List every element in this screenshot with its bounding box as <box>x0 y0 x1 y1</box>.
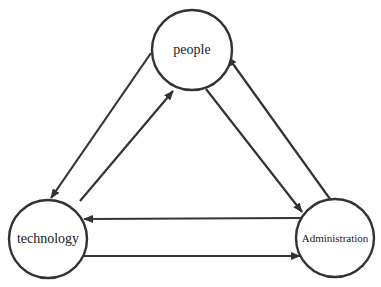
cycle-diagram: peopletechnologyAdministration <box>0 0 381 287</box>
node-label: technology <box>17 231 79 246</box>
node-label: Administration <box>302 232 369 244</box>
diagram-canvas: peopletechnologyAdministration <box>0 0 381 287</box>
node-administration: Administration <box>296 199 374 277</box>
node-label: people <box>173 42 210 57</box>
arrow-technology-to-people <box>80 91 173 201</box>
arrow-people-to-administration <box>206 89 302 212</box>
node-people: people <box>152 10 232 90</box>
arrow-administration-to-people <box>228 57 330 199</box>
nodes: peopletechnologyAdministration <box>9 10 374 278</box>
node-technology: technology <box>9 200 87 278</box>
arrow-administration-to-technology <box>84 218 301 219</box>
